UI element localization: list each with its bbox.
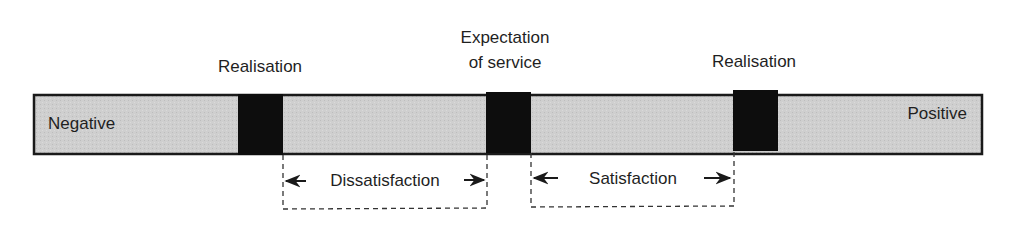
expectation-label-line2: of service — [469, 53, 542, 72]
marker-realisation-high — [733, 90, 778, 151]
positive-label: Positive — [907, 104, 967, 123]
expectation-label-line1: Expectation — [461, 28, 550, 47]
diagram-canvas: Negative Positive Realisation Expectatio… — [0, 0, 1009, 228]
realisation-high-label: Realisation — [712, 52, 796, 71]
satisfaction-label: Satisfaction — [589, 169, 677, 188]
negative-label: Negative — [48, 114, 115, 133]
marker-realisation-low — [238, 94, 283, 155]
marker-expectation — [486, 92, 531, 153]
dissatisfaction-label: Dissatisfaction — [330, 171, 440, 190]
realisation-low-label: Realisation — [218, 57, 302, 76]
